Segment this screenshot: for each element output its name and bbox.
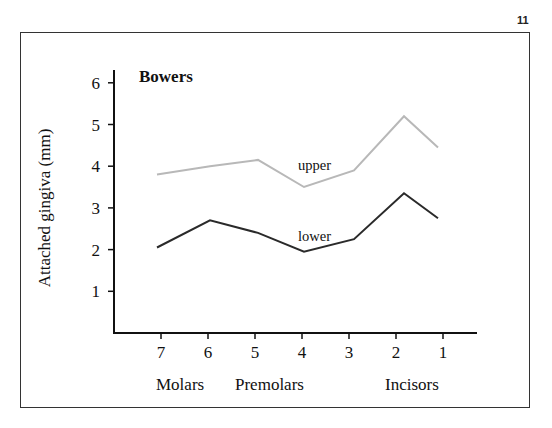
upper-series-line: [157, 116, 438, 187]
x-tick-label: 5: [251, 343, 260, 362]
y-tick-label: 6: [92, 74, 101, 93]
y-tick-label: 5: [92, 116, 101, 135]
chart-title: Bowers: [139, 67, 193, 86]
x-tick-label: 7: [157, 343, 166, 362]
x-tick-label: 1: [439, 343, 448, 362]
group-label-incisors: Incisors: [385, 375, 439, 394]
group-label-premolars: Premolars: [235, 375, 304, 394]
line-chart: 1234567654321 Bowers upper lower Attache…: [0, 0, 552, 428]
x-tick-label: 2: [392, 343, 401, 362]
y-tick-label: 1: [92, 282, 101, 301]
x-tick-label: 4: [298, 343, 307, 362]
axes: 1234567654321: [92, 70, 478, 362]
lower-series-label: lower: [298, 228, 331, 244]
x-tick-label: 3: [345, 343, 354, 362]
upper-series-label: upper: [298, 157, 331, 173]
y-tick-label: 3: [92, 199, 101, 218]
x-tick-label: 6: [204, 343, 213, 362]
y-tick-label: 4: [92, 157, 101, 176]
y-axis-label: Attached gingiva (mm): [35, 129, 54, 288]
y-tick-label: 2: [92, 241, 101, 260]
group-label-molars: Molars: [156, 375, 204, 394]
